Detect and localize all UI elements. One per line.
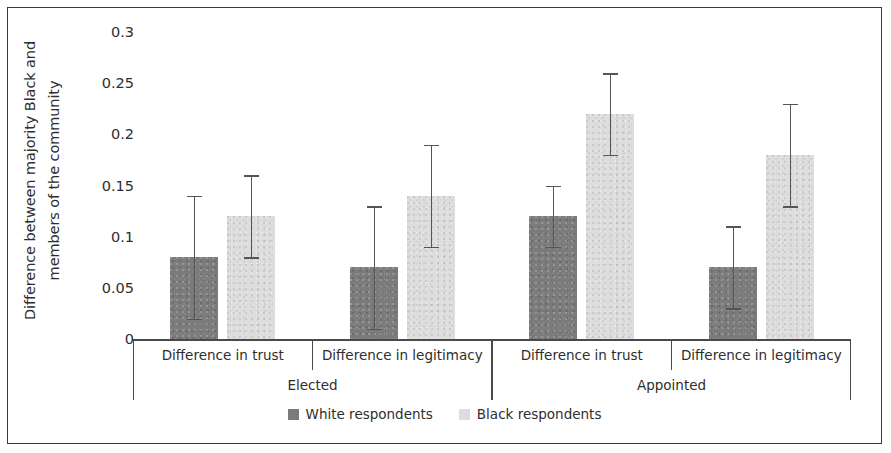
error-bar-cap-upper xyxy=(726,226,741,228)
group-separator xyxy=(491,340,492,400)
error-bar-cap-upper xyxy=(244,175,259,177)
y-axis-tick-label: 0.05 xyxy=(102,280,134,296)
error-bar-cap-upper xyxy=(783,104,798,106)
error-bar-line xyxy=(194,196,195,319)
error-bar-cap-lower xyxy=(187,319,202,321)
category-label: Difference in trust xyxy=(492,340,672,370)
error-bar-cap-lower xyxy=(367,329,382,331)
error-bar-cap-lower xyxy=(424,247,439,249)
category-separator xyxy=(312,340,313,370)
legend-label: White respondents xyxy=(306,406,433,422)
chart-figure: Difference between majority Black and me… xyxy=(7,7,882,444)
error-bar-line xyxy=(610,73,611,155)
group-label: Elected xyxy=(133,370,492,400)
y-axis-tick-label: 0.2 xyxy=(111,126,134,142)
category-label: Difference in trust xyxy=(133,340,313,370)
error-bar-cap-upper xyxy=(187,196,202,198)
error-bar-cap-upper xyxy=(424,145,439,147)
error-bar-line xyxy=(374,206,375,329)
group-label: Appointed xyxy=(492,370,851,400)
category-separator xyxy=(671,340,672,370)
category-label: Difference in legitimacy xyxy=(672,340,852,370)
y-axis-tick-labels: 0.30.250.20.150.10.050 xyxy=(70,8,140,353)
error-bar-line xyxy=(553,186,554,247)
error-bar-line xyxy=(790,104,791,206)
error-bar-line xyxy=(431,145,432,247)
error-bar-line xyxy=(251,175,252,257)
category-axis-left-edge xyxy=(133,340,134,400)
y-axis-tick-label: 0.25 xyxy=(102,75,134,91)
legend-item[interactable]: Black respondents xyxy=(459,406,602,422)
error-bar-cap-lower xyxy=(244,257,259,259)
error-bar-cap-upper xyxy=(367,206,382,208)
y-axis-tick-label: 0.3 xyxy=(111,24,134,40)
error-bar-line xyxy=(733,226,734,308)
legend-swatch-icon xyxy=(459,409,470,420)
legend-swatch-icon xyxy=(288,409,299,420)
y-axis-title-line-1: Difference between majority Black and xyxy=(22,8,38,353)
error-bar-cap-lower xyxy=(726,308,741,310)
error-bar-cap-lower xyxy=(783,206,798,208)
error-bar-cap-lower xyxy=(546,247,561,249)
error-bar-cap-lower xyxy=(603,155,618,157)
plot-area xyxy=(133,32,851,339)
legend-item[interactable]: White respondents xyxy=(288,406,433,422)
legend-label: Black respondents xyxy=(477,406,602,422)
category-axis-right-edge xyxy=(850,340,851,400)
y-axis-title: Difference between majority Black and me… xyxy=(16,8,76,353)
y-axis-tick-label: 0.15 xyxy=(102,178,134,194)
y-axis-title-line-2: members of the community xyxy=(46,8,62,353)
category-label: Difference in legitimacy xyxy=(313,340,493,370)
category-axis: Difference in trustDifference in legitim… xyxy=(133,340,851,400)
y-axis-tick-label: 0.1 xyxy=(111,229,134,245)
error-bar-cap-upper xyxy=(546,186,561,188)
error-bar-cap-upper xyxy=(603,73,618,75)
chart-legend: White respondentsBlack respondents xyxy=(8,406,881,422)
